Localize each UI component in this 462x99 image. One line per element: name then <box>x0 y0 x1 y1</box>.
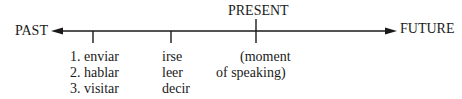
list-item: irse <box>162 49 182 65</box>
list-item: 1. enviar <box>70 49 119 65</box>
arrow-left-icon <box>51 28 63 35</box>
list-item: 2. hablar <box>70 65 119 81</box>
list-item: leer <box>162 65 183 81</box>
present-label: PRESENT <box>228 3 289 19</box>
past-label: PAST <box>15 23 48 39</box>
present-note-line-2: of speaking) <box>216 65 286 81</box>
list-item: 3. visitar <box>70 81 119 97</box>
arrow-right-icon <box>385 28 397 35</box>
future-label: FUTURE <box>400 21 454 37</box>
present-note-line-1: (moment <box>240 49 291 65</box>
list-item: decir <box>162 81 190 97</box>
